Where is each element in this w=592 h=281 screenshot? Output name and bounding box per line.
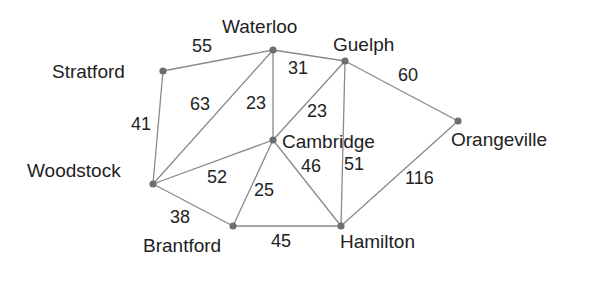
node-hamilton (337, 222, 344, 229)
edge-weight-stratford-waterloo: 55 (192, 36, 212, 56)
edge-weight-woodstock-brantford: 38 (170, 207, 190, 227)
node-orangeville (454, 117, 461, 124)
edge-weight-cambridge-brantford: 25 (254, 180, 274, 200)
city-label-hamilton: Hamilton (340, 231, 415, 252)
node-cambridge (269, 136, 276, 143)
city-label-orangeville: Orangeville (451, 129, 547, 150)
road-network-graph: 55316041632323522546511163845WaterlooGue… (0, 0, 592, 281)
edge-weight-woodstock-cambridge: 52 (207, 167, 227, 187)
edge-woodstock-brantford (153, 184, 233, 226)
node-stratford (159, 67, 166, 74)
edge-weight-guelph-cambridge: 23 (307, 101, 327, 121)
edge-weight-orangeville-hamilton: 116 (405, 168, 434, 188)
edge-weight-waterloo-cambridge: 23 (246, 93, 266, 113)
edge-weight-waterloo-guelph: 31 (288, 58, 308, 78)
edge-weight-stratford-woodstock: 41 (131, 114, 151, 134)
edge-stratford-woodstock (153, 71, 163, 184)
city-label-waterloo: Waterloo (222, 16, 297, 37)
edge-weight-guelph-orangeville: 60 (398, 65, 418, 85)
node-waterloo (269, 46, 276, 53)
city-label-guelph: Guelph (333, 34, 394, 55)
edge-cambridge-hamilton (273, 140, 341, 226)
edge-weight-guelph-hamilton: 51 (344, 154, 364, 174)
city-label-stratford: Stratford (52, 61, 125, 82)
edge-weight-cambridge-hamilton: 46 (301, 156, 321, 176)
city-label-cambridge: Cambridge (282, 131, 375, 152)
edge-weight-waterloo-woodstock: 63 (190, 94, 210, 114)
node-brantford (229, 222, 236, 229)
edge-weight-brantford-hamilton: 45 (271, 231, 291, 251)
node-guelph (341, 57, 348, 64)
city-label-woodstock: Woodstock (27, 160, 121, 181)
city-label-brantford: Brantford (143, 235, 221, 256)
node-woodstock (149, 180, 156, 187)
